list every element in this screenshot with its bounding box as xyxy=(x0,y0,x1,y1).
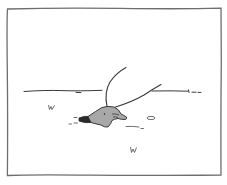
comic-panel: Comic panel: gray mole-like creature eme… xyxy=(0,0,227,185)
grass-tuft-bottom xyxy=(131,147,137,153)
antenna-right xyxy=(116,85,162,108)
panel-illustration xyxy=(0,0,227,185)
grass-tuft-left xyxy=(49,105,55,110)
antenna-left xyxy=(106,68,126,107)
horizon-line xyxy=(24,90,201,93)
pebble xyxy=(147,116,155,119)
creature xyxy=(88,106,127,127)
